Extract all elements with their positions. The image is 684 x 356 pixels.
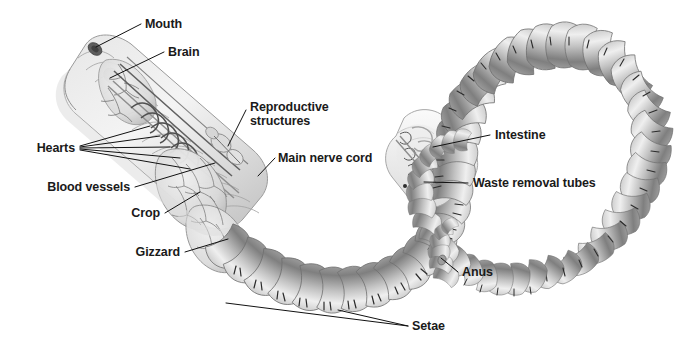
dorsal-arch-segments [429, 20, 676, 294]
label-waste-removal-tubes: Waste removal tubes [473, 177, 596, 191]
label-blood-vessels: Blood vessels [0, 181, 130, 195]
label-mouth: Mouth [145, 18, 182, 32]
label-main-nerve-cord: Main nerve cord [278, 152, 372, 166]
label-setae: Setae [412, 320, 445, 334]
label-intestine: Intestine [495, 129, 546, 143]
label-reproductive-structures-line2: structures [250, 115, 310, 129]
label-gizzard: Gizzard [0, 246, 180, 260]
label-hearts: Hearts [0, 142, 75, 156]
label-brain: Brain [168, 46, 199, 60]
label-anus: Anus [462, 266, 493, 280]
label-reproductive-structures-line1: Reproductive [250, 101, 329, 115]
label-crop: Crop [0, 207, 160, 221]
earthworm-diagram: Mouth Brain Reproductive structures Hear… [0, 0, 684, 356]
